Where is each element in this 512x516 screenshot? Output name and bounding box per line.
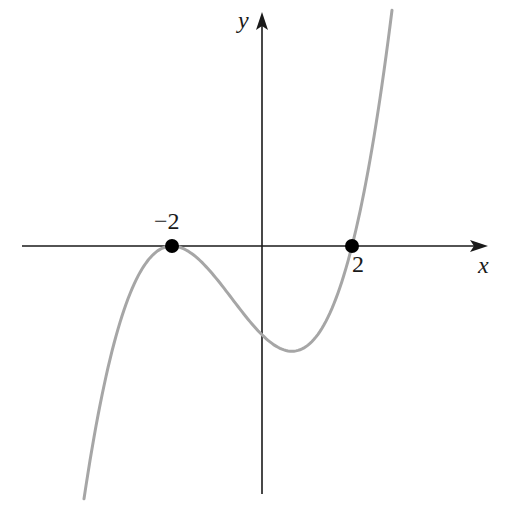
y-axis-label: y — [236, 7, 249, 33]
label-neg2: −2 — [154, 208, 180, 234]
function-graph: −2 2 x y — [0, 0, 512, 516]
x-axis-label: x — [477, 252, 489, 278]
cubic-curve — [84, 10, 392, 499]
label-2: 2 — [352, 251, 364, 277]
point-x-intercept-neg2 — [165, 239, 179, 253]
